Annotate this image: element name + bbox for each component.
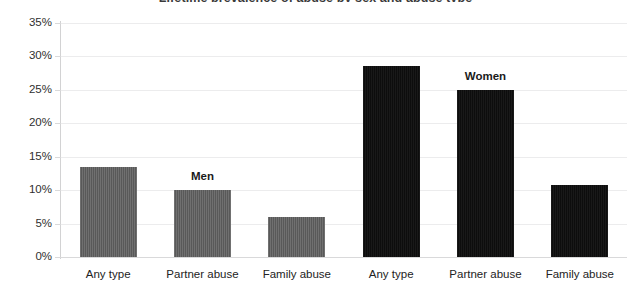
series-label-men: Men [155, 170, 249, 182]
bar [174, 190, 231, 257]
category-label: Family abuse [533, 268, 627, 281]
y-axis-tick-mark [55, 257, 61, 258]
y-axis-tick-mark [55, 190, 61, 191]
y-axis-tick-mark [55, 56, 61, 57]
bar [268, 217, 325, 257]
y-axis-tick-mark [55, 224, 61, 225]
bar [80, 167, 137, 257]
y-axis-tick-label: 35% [4, 17, 52, 28]
bar [363, 66, 420, 257]
y-axis-tick-mark [55, 123, 61, 124]
y-axis-tick-labels: 0%5%10%15%20%25%30%35% [0, 0, 52, 297]
bar-chart: Lifetime prevalence of abuse by sex and … [0, 0, 631, 297]
y-axis-tick-label: 10% [4, 184, 52, 195]
gridline-30 [61, 56, 627, 57]
gridline-15 [61, 157, 627, 158]
y-axis-tick-mark [55, 23, 61, 24]
gridline-5 [61, 224, 627, 225]
y-axis-tick-label: 15% [4, 151, 52, 162]
gridline-25 [61, 90, 627, 91]
y-axis-tick-label: 25% [4, 84, 52, 95]
y-axis-tick-label: 0% [4, 251, 52, 262]
category-label: Partner abuse [438, 268, 532, 281]
gridline-35 [61, 23, 627, 24]
y-axis-tick-mark [55, 157, 61, 158]
category-label: Any type [344, 268, 438, 281]
category-label: Family abuse [250, 268, 344, 281]
plot-area [61, 23, 627, 257]
gridline-0 [61, 257, 627, 258]
chart-title: Lifetime prevalence of abuse by sex and … [0, 0, 631, 2]
y-axis-tick-label: 5% [4, 218, 52, 229]
y-axis-tick-label: 30% [4, 50, 52, 61]
category-label: Partner abuse [155, 268, 249, 281]
y-axis-tick-mark [55, 90, 61, 91]
bar [457, 90, 514, 257]
gridline-10 [61, 190, 627, 191]
category-label: Any type [61, 268, 155, 281]
series-label-women: Women [438, 70, 532, 82]
bar [551, 185, 608, 257]
gridline-20 [61, 123, 627, 124]
y-axis-tick-label: 20% [4, 117, 52, 128]
